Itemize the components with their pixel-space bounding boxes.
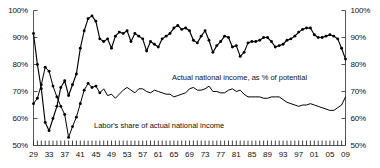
data-point [63, 113, 66, 116]
x-axis-label: 93 [275, 150, 291, 159]
y-axis-right-label: 90% [351, 33, 380, 42]
data-point [130, 40, 133, 43]
x-axis-label: 01 [306, 150, 322, 159]
data-point [286, 39, 289, 42]
annotation-actual-national-income: Actual national income, as % of potentia… [172, 73, 307, 82]
data-point [297, 31, 300, 34]
data-point [317, 36, 320, 39]
data-point [254, 40, 257, 43]
chart-container: 100%100%90%90%80%80%70%70%60%60%50%50%29… [0, 0, 380, 168]
data-point [227, 36, 230, 39]
data-point [32, 32, 35, 35]
data-point [305, 27, 308, 30]
y-axis-left-label: 60% [0, 114, 28, 123]
x-axis-label: 57 [135, 150, 151, 159]
data-point [59, 105, 62, 108]
data-point [32, 102, 35, 105]
data-point [71, 125, 74, 128]
data-point [48, 129, 51, 132]
data-point [75, 116, 78, 119]
x-axis-label: 09 [338, 150, 354, 159]
data-point [336, 37, 339, 40]
data-point [137, 35, 140, 38]
data-point [196, 41, 199, 44]
data-point [149, 40, 152, 43]
data-point [309, 27, 312, 30]
y-axis-left-label: 100% [0, 6, 28, 15]
data-point [36, 97, 39, 100]
data-point [262, 36, 265, 39]
data-point [63, 79, 66, 82]
data-point [114, 35, 117, 38]
data-point [215, 44, 218, 47]
x-axis-label: 61 [150, 150, 166, 159]
x-axis-label: 69 [182, 150, 198, 159]
data-point [55, 95, 58, 98]
data-point [40, 83, 43, 86]
y-axis-left-label: 70% [0, 87, 28, 96]
data-point [266, 36, 269, 39]
x-axis-label: 45 [88, 150, 104, 159]
x-axis-label: 77 [213, 150, 229, 159]
data-point [325, 35, 328, 38]
data-point [231, 46, 234, 49]
data-point [282, 43, 285, 46]
data-point [321, 36, 324, 39]
x-axis-label: 05 [322, 150, 338, 159]
data-point [94, 85, 97, 88]
data-point [192, 39, 195, 42]
data-point [176, 24, 179, 27]
data-point [161, 37, 164, 40]
annotation-labor-share: Labor's share of actual national income [94, 121, 224, 130]
data-point [250, 40, 253, 43]
data-point [83, 29, 86, 32]
data-point [102, 40, 105, 43]
data-point [126, 29, 129, 32]
data-point [75, 73, 78, 76]
data-point [235, 44, 238, 47]
data-point [91, 86, 94, 89]
data-point [188, 29, 191, 32]
x-axis-label: 97 [291, 150, 307, 159]
chart-plot-area [0, 0, 380, 168]
data-point [87, 82, 90, 85]
data-point [94, 20, 97, 23]
data-point [110, 47, 113, 50]
data-point [79, 47, 82, 50]
data-point [200, 35, 203, 38]
data-point [157, 46, 160, 49]
data-point [340, 47, 343, 50]
data-point [223, 35, 226, 38]
data-point [91, 14, 94, 17]
y-axis-right-label: 60% [351, 114, 380, 123]
data-point [71, 83, 74, 86]
data-point [328, 33, 331, 36]
x-axis-label: 53 [119, 150, 135, 159]
data-point [258, 39, 261, 42]
data-point [172, 27, 175, 30]
data-point [36, 63, 39, 66]
data-point [204, 29, 207, 32]
data-point [153, 43, 156, 46]
data-point [67, 136, 70, 139]
data-point [133, 32, 136, 35]
x-axis-label: 33 [41, 150, 57, 159]
x-axis-label: 85 [244, 150, 260, 159]
x-axis-label: 49 [104, 150, 120, 159]
data-point [180, 28, 183, 31]
data-point [67, 94, 70, 97]
data-point [98, 37, 101, 40]
data-point [278, 44, 281, 47]
y-axis-right-label: 80% [351, 60, 380, 69]
data-point [83, 89, 86, 92]
data-point [270, 40, 273, 43]
x-axis-label: 73 [197, 150, 213, 159]
data-point [118, 31, 121, 34]
data-point [274, 46, 277, 49]
data-point [44, 66, 47, 69]
data-point [332, 35, 335, 38]
data-point [313, 33, 316, 36]
x-axis-label: 65 [166, 150, 182, 159]
data-point [243, 51, 246, 54]
data-point [55, 105, 58, 108]
